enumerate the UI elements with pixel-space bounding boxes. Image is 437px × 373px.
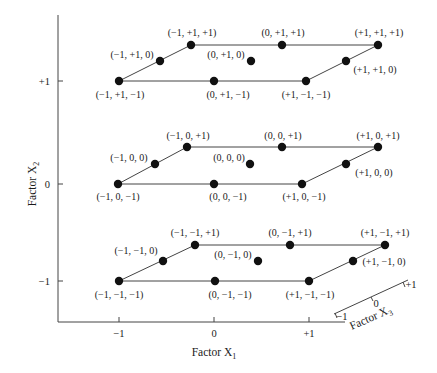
point-label: (+1, +1, 0) — [354, 64, 397, 76]
design-point — [374, 41, 382, 49]
layer-bottom: (−1, −1, −1) (0, −1, −1) (+1, −1, −1) (−… — [95, 227, 410, 301]
design-point — [183, 143, 191, 151]
point-label: (0, +1, 0) — [207, 49, 244, 61]
design-point — [151, 160, 159, 168]
design-point — [381, 241, 389, 249]
x3-tick-label: +1 — [405, 279, 416, 290]
point-label: (−1, −1, −1) — [95, 289, 144, 301]
x2-tick-label: −1 — [39, 276, 50, 287]
design-point — [115, 277, 123, 285]
design-point — [187, 41, 195, 49]
design-point — [210, 180, 218, 188]
point-label: (−1, −1, 0) — [115, 245, 158, 257]
point-label: (+1, 0, 0) — [355, 167, 392, 179]
point-label: (−1, −1, +1) — [171, 227, 220, 239]
point-label: (−1, +1, 0) — [111, 49, 154, 61]
design-point — [211, 277, 219, 285]
point-label: (−1, 0, 0) — [110, 152, 147, 164]
design-point — [374, 143, 382, 151]
design-point — [286, 241, 294, 249]
x1-tick-label: 0 — [211, 328, 216, 339]
x1-tick-label: −1 — [113, 328, 124, 339]
point-label: (0, 0, −1) — [209, 191, 246, 203]
design-point — [298, 180, 306, 188]
point-label: (+1, 0, −1) — [283, 191, 326, 203]
point-label: (+1, −1, −1) — [286, 289, 335, 301]
point-label: (+1, −1, −1) — [282, 89, 331, 101]
point-label: (−1, 0, −1) — [97, 191, 140, 203]
point-label: (+1, 0, +1) — [357, 130, 400, 142]
point-label: (0, 0, 0) — [213, 152, 245, 164]
design-point — [246, 160, 254, 168]
point-label: (0, +1, +1) — [262, 27, 305, 39]
design-point — [115, 77, 123, 85]
x3-axis-title: Factor X3 — [348, 303, 395, 335]
factorial-design-diagram: +1 0 −1 −1 0 +1 −1 0 +1 Factor X1 Factor… — [0, 0, 437, 373]
design-point — [159, 257, 167, 265]
design-point — [191, 241, 199, 249]
design-point — [305, 277, 313, 285]
x1-axis-title: Factor X1 — [192, 346, 237, 361]
design-point — [302, 77, 310, 85]
x2-tick-label: 0 — [45, 179, 50, 190]
layer-edge — [302, 147, 378, 184]
point-label: (+1, −1, +1) — [361, 227, 410, 239]
design-point — [254, 257, 262, 265]
layer-top: (−1, +1, −1) (0, +1, −1) (+1, −1, −1) (−… — [96, 27, 404, 101]
point-label: (0, 0, +1) — [264, 130, 301, 142]
x2-axis-title: Factor X2 — [26, 162, 41, 207]
point-label: (0, −1, −1) — [209, 289, 252, 301]
point-label: (0, −1, +1) — [269, 227, 312, 239]
layer-middle: (−1, 0, −1) (0, 0, −1) (+1, 0, −1) (−1, … — [97, 130, 400, 203]
x3-tick-label: −1 — [336, 311, 347, 322]
design-point — [247, 57, 255, 65]
x1-tick-label: +1 — [303, 328, 314, 339]
point-label: (+1, −1, 0) — [363, 256, 406, 268]
design-point — [342, 160, 350, 168]
layer-edge — [306, 45, 378, 81]
design-point — [278, 41, 286, 49]
point-label: (0, −1, 0) — [214, 249, 251, 261]
x2-tick-label: +1 — [39, 76, 50, 87]
point-label: (−1, +1, −1) — [96, 89, 145, 101]
point-label: (0, +1, −1) — [207, 89, 250, 101]
point-label: (−1, +1, +1) — [168, 27, 217, 39]
design-point — [156, 57, 164, 65]
design-point — [210, 77, 218, 85]
design-point — [114, 180, 122, 188]
design-point — [278, 143, 286, 151]
point-label: (−1, 0, +1) — [167, 130, 210, 142]
design-point — [342, 57, 350, 65]
design-point — [349, 257, 357, 265]
point-label: (+1, +1, +1) — [355, 27, 404, 39]
